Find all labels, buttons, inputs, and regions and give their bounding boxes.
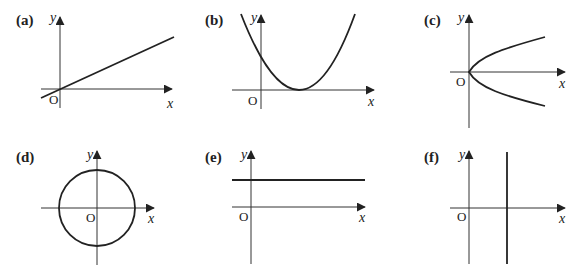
y-axis-label: y [239,147,248,162]
origin-label: O [456,74,465,89]
origin-label: O [49,92,58,107]
y-axis-label: y [85,147,94,162]
panel-label-b: (b) [205,12,223,29]
y-axis-label: y [48,10,57,25]
origin-label: O [457,209,466,224]
panel-label-c: (c) [424,12,441,29]
y-axis-label: y [456,10,465,25]
panel-a: (a) y x O [16,10,174,111]
panel-label-e: (e) [205,149,222,166]
y-axis-label: y [249,10,258,25]
panel-c: (c) y x O [424,10,566,128]
x-axis-label: x [558,211,566,226]
x-axis-label: x [166,96,174,111]
panel-f: (f) y x O [424,147,566,264]
origin-label: O [239,209,248,224]
panel-label-d: (d) [16,149,34,166]
panel-d: (d) y x O [16,147,155,265]
origin-label: O [86,210,95,225]
x-axis-label: x [367,94,375,109]
panel-label-f: (f) [424,149,439,166]
panel-b: (b) y x O [205,10,375,109]
x-axis-label: x [558,76,566,91]
x-axis-label: x [147,211,155,226]
panel-label-a: (a) [16,12,34,29]
x-axis-label: x [358,210,366,225]
origin-label: O [248,93,257,108]
y-axis-label: y [457,147,466,162]
panel-e: (e) y x O [205,147,366,264]
parabola-graph [241,14,355,90]
graphs-figure: (a) y x O (b) y x O (c) y x O (d) y x O [0,0,580,275]
